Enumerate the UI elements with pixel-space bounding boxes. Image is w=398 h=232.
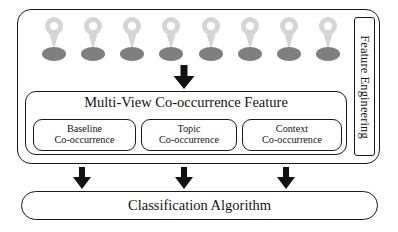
map-pin-shadow bbox=[316, 47, 340, 61]
map-pin-hole bbox=[50, 22, 58, 30]
context-co-occurrence-box[interactable]: Context Co-occurrence bbox=[242, 119, 342, 151]
classification-algorithm-box[interactable]: Classification Algorithm bbox=[21, 191, 378, 220]
map-pin-shadow bbox=[238, 47, 262, 61]
arrow-pins-to-multiview-icon bbox=[171, 65, 197, 90]
map-pin-shadow bbox=[199, 47, 223, 61]
baseline-co-occurrence-box[interactable]: Baseline Co-occurrence bbox=[33, 119, 136, 151]
map-pin-icon bbox=[158, 16, 184, 64]
map-pin-icon bbox=[276, 16, 302, 64]
map-pin-shadow bbox=[277, 47, 301, 61]
arrow-context-to-classification-icon bbox=[275, 167, 297, 190]
map-pin-hole bbox=[324, 22, 332, 30]
map-pin-hole bbox=[285, 22, 293, 30]
classification-algorithm-label: Classification Algorithm bbox=[128, 198, 271, 213]
map-pin-hole bbox=[207, 22, 215, 30]
map-pin-icon bbox=[119, 16, 145, 64]
map-pin-shadow bbox=[81, 47, 105, 61]
arrow-topic-to-classification-icon bbox=[173, 167, 195, 190]
topic-co-occurrence-line2: Co-occurrence bbox=[159, 135, 219, 146]
map-pin-icon bbox=[80, 16, 106, 64]
arrow-baseline-to-classification-icon bbox=[71, 167, 93, 190]
feature-engineering-label: Feature Engineering bbox=[358, 35, 371, 139]
feature-engineering-label-box: Feature Engineering bbox=[354, 17, 375, 156]
map-pin-icon bbox=[315, 16, 341, 64]
map-pin-hole bbox=[246, 22, 254, 30]
context-co-occurrence-line2: Co-occurrence bbox=[262, 135, 322, 146]
map-pin-icon bbox=[41, 16, 67, 64]
diagram-canvas: Multi-View Co-occurrence Feature Baselin… bbox=[0, 0, 398, 232]
map-pin-icon bbox=[198, 16, 224, 64]
baseline-co-occurrence-line2: Co-occurrence bbox=[55, 135, 115, 146]
map-pin-shadow bbox=[120, 47, 144, 61]
topic-co-occurrence-box[interactable]: Topic Co-occurrence bbox=[141, 119, 237, 151]
map-pin-shadow bbox=[42, 47, 66, 61]
multi-view-feature-title: Multi-View Co-occurrence Feature bbox=[26, 95, 346, 111]
map-pin-icon bbox=[237, 16, 263, 64]
map-pin-shadow bbox=[159, 47, 183, 61]
multi-view-feature-box: Multi-View Co-occurrence Feature Baselin… bbox=[25, 91, 347, 155]
map-pin-row bbox=[41, 16, 341, 64]
